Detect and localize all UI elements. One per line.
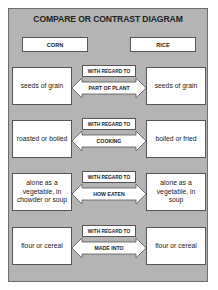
with-regard-to-label: WITH REGARD TO	[82, 225, 136, 237]
left-item-box: seeds of grain	[12, 67, 72, 105]
with-regard-to-label: WITH REGARD TO	[82, 171, 136, 183]
compare-contrast-diagram: COMPARE OR CONTRAST DIAGRAM CORN RICE se…	[8, 8, 208, 282]
criterion-label: MADE INTO	[72, 237, 146, 259]
right-item-box: boiled or fried	[146, 120, 206, 158]
criterion-label: HOW EATEN	[72, 183, 146, 205]
criterion-label: PART OF PLANT	[72, 77, 146, 99]
right-subject-header: RICE	[130, 37, 196, 52]
double-arrow: MADE INTO	[72, 237, 146, 259]
diagram-title: COMPARE OR CONTRAST DIAGRAM	[9, 14, 207, 24]
double-arrow: COOKING	[72, 130, 146, 152]
double-arrow: PART OF PLANT	[72, 77, 146, 99]
right-item-box: seeds of grain	[146, 67, 206, 105]
double-arrow: HOW EATEN	[72, 183, 146, 205]
left-item-box: roasted or boiled	[12, 120, 72, 158]
left-item-box: flour or cereal	[12, 227, 72, 265]
left-item-box: alone as a vegetable, in chowder or soup	[12, 173, 72, 211]
with-regard-to-label: WITH REGARD TO	[82, 118, 136, 130]
criterion-label: COOKING	[72, 130, 146, 152]
right-item-box: flour or cereal	[146, 227, 206, 265]
left-subject-header: CORN	[22, 37, 88, 52]
right-item-box: alone as a vegetable, in soup	[146, 173, 206, 211]
with-regard-to-label: WITH REGARD TO	[82, 65, 136, 77]
